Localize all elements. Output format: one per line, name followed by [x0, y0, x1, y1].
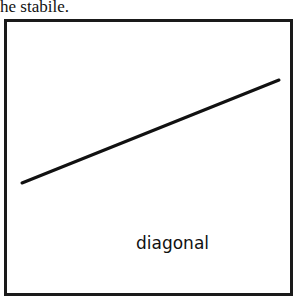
diagonal-line [0, 0, 295, 302]
figure-label: diagonal [136, 233, 209, 253]
